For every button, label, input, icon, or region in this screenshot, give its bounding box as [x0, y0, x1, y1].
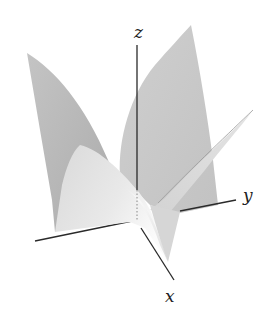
y-axis-label: y [242, 185, 253, 205]
x-axis-label: x [165, 286, 175, 306]
surface-sheet-right [120, 25, 218, 214]
z-axis-label: z [133, 22, 144, 42]
surface-plot-figure: z y x [0, 0, 266, 323]
